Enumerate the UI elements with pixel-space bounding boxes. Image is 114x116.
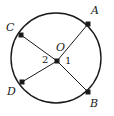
angle-label-2: 2 [42, 55, 48, 65]
point-dot-c [19, 33, 24, 38]
point-dot-b [86, 90, 91, 95]
center-point-dot-o [55, 59, 60, 64]
segment-o-to-b [57, 61, 88, 92]
segment-o-to-c [21, 35, 57, 61]
circle-geometry-figure: O A C D B 1 2 [0, 0, 114, 116]
angle-label-1: 1 [65, 56, 71, 66]
center-label-o: O [56, 42, 65, 53]
point-dot-a [86, 22, 91, 27]
point-label-c: C [6, 22, 14, 33]
segment-o-to-d [22, 61, 57, 82]
point-label-d: D [7, 86, 16, 97]
point-dot-d [20, 80, 25, 85]
point-label-b: B [90, 98, 98, 109]
point-label-a: A [91, 5, 99, 16]
